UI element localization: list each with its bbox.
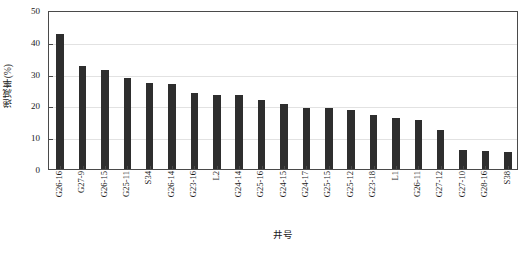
x-axis-tick: G26-11	[406, 171, 428, 229]
x-axis-tick-label: G23-16	[189, 171, 198, 197]
x-axis-tick-mark	[217, 166, 218, 169]
y-axis-tick-label: 40	[31, 38, 40, 47]
x-axis-tick: G27-12	[428, 171, 450, 229]
y-axis-tick-label: 0	[36, 166, 41, 175]
x-axis-tick-mark	[329, 166, 330, 169]
bar	[146, 83, 154, 169]
x-axis-tick-mark	[239, 166, 240, 169]
x-axis-tick: G26-14	[160, 171, 182, 229]
x-axis-tick-mark	[306, 166, 307, 169]
x-axis-tick-mark	[127, 166, 128, 169]
bar	[101, 70, 109, 169]
x-axis-tick-mark	[172, 166, 173, 169]
x-axis-tick-label: G24-17	[301, 171, 310, 197]
x-axis-tick-mark	[351, 166, 352, 169]
x-axis-tick-mark	[262, 166, 263, 169]
x-axis-tick: G24-14	[227, 171, 249, 229]
bar	[280, 104, 288, 169]
bar	[347, 110, 355, 169]
bars-layer	[49, 12, 517, 169]
x-axis-tick: G25-16	[249, 171, 271, 229]
y-axis-tick-label: 30	[31, 70, 40, 79]
x-axis-tick-label: L2	[212, 171, 221, 181]
bar	[79, 66, 87, 169]
y-axis-title-label: 递减率(%)	[4, 64, 14, 108]
x-axis-tick-mark	[83, 166, 84, 169]
x-axis-tick-label: G24-15	[279, 171, 288, 197]
bar	[392, 118, 400, 169]
x-axis-tick-labels: G26-16G27-9G26-15G25-11S34G26-14G23-16L2…	[48, 171, 518, 229]
bar	[415, 120, 423, 169]
bar	[124, 78, 132, 169]
x-axis-tick: G27-9	[70, 171, 92, 229]
x-axis-tick: G25-15	[317, 171, 339, 229]
x-axis-tick: G27-10	[451, 171, 473, 229]
bar	[303, 108, 311, 169]
x-axis-tick-label: S34	[144, 171, 153, 184]
x-axis-tick: G25-12	[339, 171, 361, 229]
x-axis-tick: L2	[205, 171, 227, 229]
bar	[235, 95, 243, 169]
x-axis-tick-mark	[60, 166, 61, 169]
x-axis-tick: G24-15	[272, 171, 294, 229]
bar	[191, 93, 199, 169]
bar	[258, 100, 266, 169]
x-axis-tick-label: G27-12	[435, 171, 444, 197]
x-axis-tick: G28-16	[473, 171, 495, 229]
x-axis-tick-label: G27-9	[77, 171, 86, 193]
x-axis-tick: G26-16	[48, 171, 70, 229]
x-axis-tick-label: G25-16	[256, 171, 265, 197]
x-axis-tick-label: G26-16	[55, 171, 64, 197]
x-axis-tick-mark	[463, 166, 464, 169]
x-axis-tick-mark	[508, 166, 509, 169]
bar	[213, 95, 221, 169]
x-axis-tick-label: G24-14	[234, 171, 243, 197]
y-axis-tick-labels: 01020304050	[18, 0, 44, 172]
bar-chart: 递减率(%) 01020304050 G26-16G27-9G26-15G25-…	[0, 0, 532, 256]
x-axis-tick-mark	[396, 166, 397, 169]
x-axis-tick-label: S38	[503, 171, 512, 184]
x-axis-tick-mark	[485, 166, 486, 169]
bar	[168, 84, 176, 169]
x-axis-tick-label: G25-15	[323, 171, 332, 197]
x-axis-title: 井号	[48, 231, 518, 241]
x-axis-tick-mark	[105, 166, 106, 169]
x-axis-tick-label: G28-16	[480, 171, 489, 197]
y-axis-tick-label: 10	[31, 134, 40, 143]
bar	[370, 115, 378, 169]
y-axis-tick-label: 20	[31, 102, 40, 111]
bar	[437, 130, 445, 169]
y-axis-tick-label: 50	[31, 7, 40, 16]
plot-area	[48, 11, 518, 170]
x-axis-tick: G24-17	[294, 171, 316, 229]
x-axis-tick: L1	[384, 171, 406, 229]
x-axis-tick-mark	[284, 166, 285, 169]
x-axis-tick-label: L1	[391, 171, 400, 181]
x-axis-tick-mark	[374, 166, 375, 169]
x-axis-tick: S34	[138, 171, 160, 229]
x-axis-tick-label: G26-14	[167, 171, 176, 197]
x-axis-tick: S38	[496, 171, 518, 229]
x-axis-tick-label: G25-12	[346, 171, 355, 197]
x-axis-tick-label: G26-15	[100, 171, 109, 197]
x-axis-tick: G23-16	[182, 171, 204, 229]
x-axis-tick: G23-18	[361, 171, 383, 229]
x-axis-tick-mark	[150, 166, 151, 169]
x-axis-tick-mark	[418, 166, 419, 169]
x-axis-tick-mark	[441, 166, 442, 169]
x-axis-tick-mark	[194, 166, 195, 169]
x-axis-tick: G26-15	[93, 171, 115, 229]
x-axis-tick-label: G26-11	[413, 171, 422, 197]
y-axis-title: 递减率(%)	[0, 0, 18, 172]
x-axis-tick: G25-11	[115, 171, 137, 229]
bar	[56, 34, 64, 169]
x-axis-tick-label: G25-11	[122, 171, 131, 197]
x-axis-tick-label: G23-18	[368, 171, 377, 197]
x-axis-tick-label: G27-10	[458, 171, 467, 197]
bar	[325, 108, 333, 169]
x-axis-title-label: 井号	[273, 230, 293, 240]
